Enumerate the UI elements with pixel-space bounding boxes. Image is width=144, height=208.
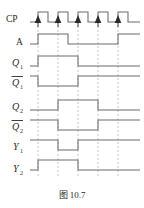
signal-label-q1-subscript: 1 — [20, 63, 23, 70]
waveform-y2 — [30, 160, 140, 170]
signal-label-q2-group: Q 2 — [12, 101, 23, 114]
timing-diagram-figure: CP A Q 1 Q 1 Q 2 Q 2 — [0, 0, 144, 208]
waveform-q1bar — [30, 76, 140, 86]
signal-label-q2: Q — [12, 101, 20, 112]
signal-label-y1-subscript: 1 — [20, 147, 23, 154]
waveform-y1 — [30, 140, 140, 150]
signal-label-y2: Y — [13, 163, 20, 174]
figure-caption: 图 10.7 — [59, 190, 87, 200]
waveform-q2 — [30, 100, 140, 110]
signal-label-q2bar-subscript: 2 — [20, 127, 23, 134]
signal-labels: CP A Q 1 Q 1 Q 2 Q 2 — [6, 14, 23, 176]
signal-label-a: A — [16, 37, 23, 47]
waveform-canvas: CP A Q 1 Q 1 Q 2 Q 2 — [0, 0, 144, 208]
signal-label-cp: CP — [6, 14, 18, 24]
signal-row-q2 — [30, 100, 140, 110]
waveform-q2bar — [30, 120, 140, 130]
signal-row-q1 — [30, 56, 140, 66]
signal-label-q2bar: Q — [12, 121, 20, 132]
signal-row-q2bar — [30, 120, 140, 130]
signal-row-y2 — [30, 160, 140, 170]
signal-row-y1 — [30, 140, 140, 150]
waveform-a — [30, 34, 140, 44]
waveform-q1 — [30, 56, 140, 66]
signal-label-y1-group: Y 1 — [13, 141, 23, 154]
signal-label-y1: Y — [13, 141, 20, 152]
signal-row-q1bar — [30, 76, 140, 86]
signal-label-q1bar: Q — [12, 77, 20, 88]
signal-label-q1bar-group: Q 1 — [12, 77, 24, 90]
alignment-markers — [38, 18, 118, 176]
signal-label-q1-group: Q 1 — [12, 57, 23, 70]
signal-label-q2bar-group: Q 2 — [12, 121, 24, 134]
waveform-cp — [30, 12, 140, 22]
signal-label-q1: Q — [12, 57, 20, 68]
signal-label-y2-subscript: 2 — [20, 169, 23, 176]
signal-label-y2-group: Y 2 — [13, 163, 23, 176]
signal-label-q1bar-subscript: 1 — [20, 83, 23, 90]
signal-label-q2-subscript: 2 — [20, 107, 23, 114]
signal-row-a — [30, 34, 140, 44]
signal-row-cp — [30, 12, 140, 27]
